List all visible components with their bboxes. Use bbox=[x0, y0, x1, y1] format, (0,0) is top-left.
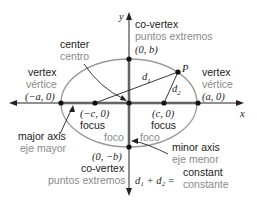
point-p-label: P bbox=[181, 63, 189, 74]
minor-axis-label-es: eje menor bbox=[172, 153, 219, 165]
focus-left-label: focus bbox=[80, 119, 105, 131]
ellipse-diagram: x y center centro co-vertex puntos extre… bbox=[0, 0, 257, 205]
vertex-right-label-es: vértice bbox=[202, 78, 233, 90]
major-axis-label-es: eje mayor bbox=[20, 142, 67, 154]
focus-left-point bbox=[92, 100, 97, 105]
point-p bbox=[175, 69, 180, 74]
covertex-top-point bbox=[126, 56, 131, 61]
x-axis-arrow-left bbox=[9, 100, 17, 106]
center-point bbox=[126, 100, 131, 105]
minor-axis-pointer-arrowhead bbox=[131, 138, 138, 144]
y-axis-arrow-down bbox=[126, 188, 132, 196]
equation-lhs: d₁ + d₂ = bbox=[135, 175, 175, 186]
covertex-bottom-point bbox=[126, 144, 131, 149]
covertex-top-label: co-vertex bbox=[135, 18, 179, 30]
focus-right-label: focus bbox=[151, 119, 176, 131]
equation-constant-es: constante bbox=[183, 178, 229, 190]
major-axis-label: major axis bbox=[18, 130, 66, 142]
covertex-bottom-label-es: puntos extremos bbox=[48, 174, 126, 186]
focus-left-label-es: foco bbox=[104, 131, 124, 143]
vertex-left-label: vertex bbox=[28, 66, 57, 78]
d1-label: d1 bbox=[142, 71, 151, 85]
vertex-right-label: vertex bbox=[202, 66, 231, 78]
major-axis-pointer-arrowhead bbox=[69, 105, 75, 112]
vertex-left-label-es: vértice bbox=[26, 78, 57, 90]
covertex-bottom-label: co-vertex bbox=[81, 162, 125, 174]
center-label-es: centro bbox=[60, 50, 89, 62]
x-axis-label: x bbox=[239, 108, 245, 119]
vertex-left-point bbox=[58, 100, 63, 105]
y-axis-label: y bbox=[118, 11, 124, 22]
covertex-top-label-es: puntos extremos bbox=[135, 30, 213, 42]
x-axis-arrow-right bbox=[236, 100, 244, 106]
y-axis-arrow-up bbox=[126, 12, 132, 20]
covertex-top-coord: (0, b) bbox=[135, 44, 158, 56]
d1-line bbox=[95, 72, 178, 103]
center-pointer-arrowhead bbox=[120, 95, 127, 101]
focus-right-label-es: foco bbox=[140, 131, 160, 143]
center-pointer-arrow bbox=[84, 64, 124, 99]
d2-label: d2 bbox=[172, 83, 181, 97]
vertex-right-coord: (a, 0) bbox=[202, 91, 225, 103]
minor-axis-label: minor axis bbox=[172, 141, 220, 153]
vertex-right-point bbox=[195, 100, 200, 105]
center-label: center bbox=[60, 38, 90, 50]
vertex-left-coord: (−a, 0) bbox=[25, 91, 55, 103]
equation-constant: constant bbox=[183, 166, 223, 178]
focus-right-point bbox=[161, 100, 166, 105]
